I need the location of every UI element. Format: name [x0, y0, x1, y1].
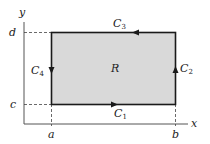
curve-label-c4: C4: [31, 64, 44, 78]
curve-label-c2: C2: [180, 62, 193, 76]
y-axis-label: y: [18, 6, 26, 19]
x-axis-label: x: [191, 117, 198, 130]
c4-sub: 4: [39, 70, 44, 78]
tick-label-a: a: [48, 128, 55, 141]
tick-label-c: c: [10, 98, 16, 111]
region-diagram: y x d c a b R C3 C2 C1 C4: [0, 0, 210, 144]
c2-sub: 2: [188, 68, 192, 76]
curve-label-c1: C1: [114, 107, 127, 121]
curve-label-c3: C3: [113, 17, 126, 31]
tick-label-b: b: [172, 128, 179, 141]
c1-sub: 1: [122, 113, 126, 121]
c3-sub: 3: [121, 23, 125, 31]
region-label: R: [110, 62, 119, 75]
tick-label-d: d: [9, 26, 16, 39]
